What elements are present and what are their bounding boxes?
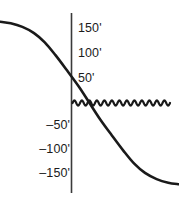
tick-label-50: 50' [78,71,95,85]
tick-label-150: 150' [78,21,102,35]
elevation-profile-figure: 150' 100' 50' –50' –100' –150' [0,0,179,210]
tick-label-100: 100' [78,46,102,60]
tick-label-minus-100: –100' [39,142,70,156]
tick-label-minus-150: –150' [39,166,70,180]
tick-label-minus-50: –50' [46,118,70,132]
